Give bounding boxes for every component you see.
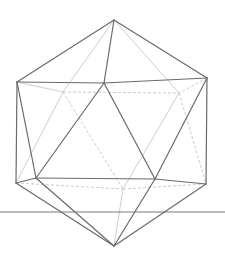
visible-edge xyxy=(155,78,207,179)
hidden-dashed-edge xyxy=(16,183,123,189)
hidden-dashed-edge xyxy=(123,184,206,189)
hidden-edge xyxy=(17,82,63,92)
hidden-edge xyxy=(63,20,114,92)
visible-edge xyxy=(155,179,206,184)
visible-edge xyxy=(114,184,206,246)
visible-edge xyxy=(36,178,155,179)
visible-edge xyxy=(36,83,104,178)
visible-edge xyxy=(16,82,17,183)
hidden-edge xyxy=(123,93,179,189)
hidden-edge xyxy=(16,92,63,183)
visible-edge xyxy=(16,183,114,246)
icosahedron-diagram xyxy=(0,0,225,266)
visible-edge xyxy=(114,20,207,78)
visible-edge xyxy=(17,20,114,82)
hidden-dashed-edge xyxy=(63,92,179,93)
visible-edge xyxy=(104,78,207,83)
visible-edge xyxy=(16,178,36,183)
visible-edge xyxy=(206,78,207,184)
visible-edge xyxy=(104,20,114,83)
hidden-edge xyxy=(114,189,123,246)
visible-edge xyxy=(17,82,104,83)
visible-edge xyxy=(104,83,155,179)
hidden-dashed-edge xyxy=(63,92,123,189)
